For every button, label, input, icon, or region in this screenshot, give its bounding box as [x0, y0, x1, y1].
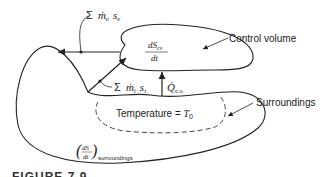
heat-transfer-label: Q̇c.v. — [167, 81, 184, 94]
inlet-flow-label: Σ ṁi si — [114, 81, 146, 95]
surroundings-leader — [228, 103, 253, 116]
figure-caption: FIGURE 7.9 — [12, 170, 87, 177]
surr-entropy-rate-denominator: dt — [83, 153, 90, 161]
cv-entropy-rate-numerator: dScv — [148, 40, 163, 51]
surr-paren-right: ) — [91, 142, 97, 160]
temperature-label: Temperature = T0 — [116, 108, 193, 120]
surr-subscript-label: surroundings — [98, 155, 133, 161]
inlet-flow-leader — [100, 81, 112, 87]
exit-flow-label: Σ ṁe se — [86, 9, 120, 23]
surroundings-label: Surroundings — [256, 97, 315, 108]
control-volume-boundary — [120, 24, 253, 71]
control-volume-label: Control volume — [229, 33, 297, 44]
entropy-control-volume-diagram: Σ ṁe se Σ ṁi si dScv dt Control volume Q… — [0, 0, 320, 177]
cv-entropy-rate-denominator: dt — [151, 53, 159, 63]
control-volume-leader — [203, 38, 228, 49]
surr-entropy-rate-numerator: dS — [82, 144, 90, 152]
surroundings-boundary — [16, 46, 265, 163]
exit-flow-leader — [80, 16, 88, 52]
